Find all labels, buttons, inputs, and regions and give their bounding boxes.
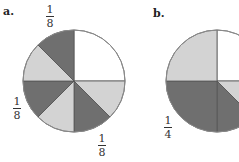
denominator: 8 xyxy=(14,110,21,121)
numerator: 1 xyxy=(47,4,54,15)
numerator: 1 xyxy=(99,133,106,144)
numerator: 1 xyxy=(165,115,172,126)
numerator: 1 xyxy=(14,96,21,107)
diagram-b-label: b. xyxy=(153,7,165,20)
denominator: 4 xyxy=(165,129,172,140)
pie-b-sector-4 xyxy=(166,30,217,81)
diagram-a-label: a. xyxy=(3,5,14,18)
fraction-a-top: 1 8 xyxy=(46,4,54,29)
fraction-a-left: 1 8 xyxy=(13,96,21,121)
pie-b-sector-0 xyxy=(217,30,239,81)
pie-diagrams xyxy=(0,0,239,162)
fraction-a-bottom: 1 8 xyxy=(98,133,106,158)
denominator: 8 xyxy=(99,147,106,158)
fraction-b-left: 1 4 xyxy=(164,115,172,140)
pie-a-sector-0 xyxy=(74,30,125,81)
pie-b-sector-3 xyxy=(166,81,217,132)
denominator: 8 xyxy=(47,18,54,29)
